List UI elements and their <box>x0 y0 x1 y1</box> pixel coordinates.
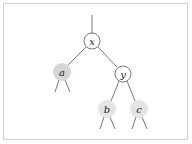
node-y-label: y <box>119 69 126 80</box>
edge-y-c <box>127 81 135 101</box>
edge-x-a <box>68 47 86 65</box>
node-a: a <box>53 63 71 81</box>
edge-c-right-subtree <box>142 117 147 129</box>
edge-b-left-subtree <box>100 117 104 129</box>
node-c: c <box>130 100 148 118</box>
node-c-label: c <box>136 104 142 115</box>
node-b-label: b <box>104 104 110 115</box>
node-b: b <box>98 100 116 118</box>
edge-x-y <box>98 47 117 67</box>
node-y: y <box>115 66 131 82</box>
edge-a-right-subtree <box>65 80 70 92</box>
edge-b-right-subtree <box>110 117 115 129</box>
tree-diagram: x a y b c <box>0 0 192 144</box>
node-a-label: a <box>59 67 65 78</box>
node-x-label: x <box>89 36 95 47</box>
edge-c-left-subtree <box>132 117 136 129</box>
edge-y-b <box>111 81 119 101</box>
edge-a-left-subtree <box>55 80 59 92</box>
node-x: x <box>84 33 100 49</box>
